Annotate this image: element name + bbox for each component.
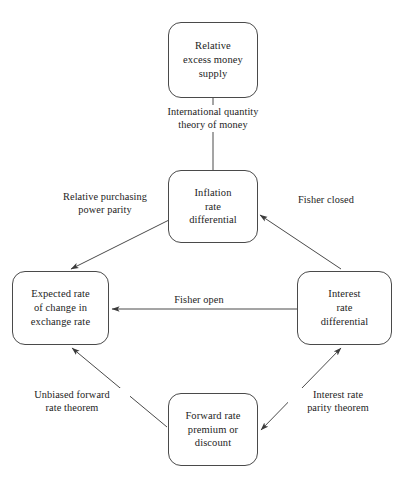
edge-label-international-quantity-theory-of-money: International quantity theory of money [150, 105, 276, 132]
edge-label-interest-rate-parity-theorem: Interest rate parity theorem [288, 388, 388, 415]
node-relative-excess-money-supply[interactable]: Relative excess money supply [168, 22, 258, 98]
node-inflation-rate-differential[interactable]: Inflation rate differential [168, 170, 258, 243]
node-label: Interest rate differential [316, 287, 374, 329]
node-label: Relative excess money supply [178, 39, 248, 81]
node-label: Forward rate premium or discount [180, 409, 245, 451]
edge-label-fisher-open: Fisher open [153, 293, 245, 306]
edge-label-relative-purchasing-power-parity: Relative purchasing power parity [47, 190, 163, 217]
edge-fisher-closed [260, 215, 341, 269]
node-label: Expected rate of change in exchange rate [26, 287, 95, 329]
edge-label-fisher-closed: Fisher closed [283, 193, 369, 206]
node-expected-rate-of-change-in-exchange-rate[interactable]: Expected rate of change in exchange rate [12, 271, 109, 345]
edge-label-unbiased-forward-rate-theorem: Unbiased forward rate theorem [14, 388, 130, 415]
edge-relative-purchasing-power-parity [71, 219, 171, 269]
node-interest-rate-differential[interactable]: Interest rate differential [297, 271, 392, 345]
node-label: Inflation rate differential [184, 186, 242, 228]
node-forward-rate-premium-or-discount[interactable]: Forward rate premium or discount [168, 393, 258, 466]
diagram-canvas: Relative excess money supply Inflation r… [0, 0, 399, 488]
